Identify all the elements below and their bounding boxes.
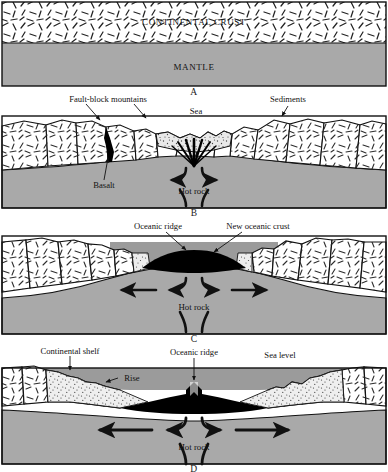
label-hot-rock: Hot rock (178, 442, 210, 452)
panel-letter-d: D (0, 464, 388, 472)
panel-c: Oceanic ridge New oceanic crust Hot rock (0, 220, 388, 336)
panel-c-diagram: Oceanic ridge New oceanic crust Hot rock (0, 220, 388, 336)
panel-d-diagram: Continental shelf Rise Oceanic ridge Sea… (0, 346, 388, 470)
panel-letter-b: B (0, 208, 388, 218)
figure-sheet: CONTINENTAL CRUST MANTLE A (0, 0, 388, 472)
label-sea: Sea (190, 106, 203, 116)
label-fault-block-mountains: Fault-block mountains (69, 94, 147, 104)
label-oceanic-ridge: Oceanic ridge (170, 347, 218, 357)
label-continental-shelf: Continental shelf (41, 346, 100, 356)
label-continental-crust: CONTINENTAL CRUST (142, 17, 246, 27)
panel-a: CONTINENTAL CRUST MANTLE (0, 0, 388, 88)
label-mantle: MANTLE (173, 62, 214, 72)
label-hot-rock: Hot rock (178, 186, 210, 196)
label-new-oceanic-crust: New oceanic crust (226, 221, 290, 231)
label-rise: Rise (124, 373, 139, 383)
panel-letter-c: C (0, 334, 388, 344)
panel-b: Fault-block mountains Sea Sediments Basa… (0, 94, 388, 210)
label-sea-level: Sea level (264, 350, 296, 360)
label-sediments: Sediments (270, 94, 306, 104)
panel-a-diagram: CONTINENTAL CRUST MANTLE (0, 0, 388, 88)
label-hot-rock: Hot rock (178, 302, 210, 312)
label-basalt: Basalt (93, 180, 115, 190)
label-oceanic-ridge: Oceanic ridge (134, 221, 182, 231)
panel-d: Continental shelf Rise Oceanic ridge Sea… (0, 346, 388, 470)
panel-b-diagram: Fault-block mountains Sea Sediments Basa… (0, 94, 388, 210)
